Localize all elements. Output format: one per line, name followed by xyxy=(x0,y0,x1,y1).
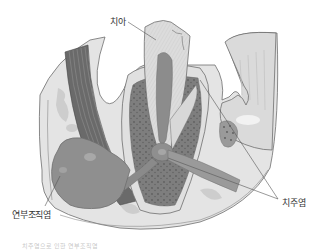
label-periodontitis: 치주염 xyxy=(282,196,305,209)
figure-caption: 치주염으로 인한 연부조직염 xyxy=(22,241,98,250)
label-tooth: 치아 xyxy=(110,15,126,28)
label-soft-tissue-inflammation: 연부조직염 xyxy=(12,208,51,221)
